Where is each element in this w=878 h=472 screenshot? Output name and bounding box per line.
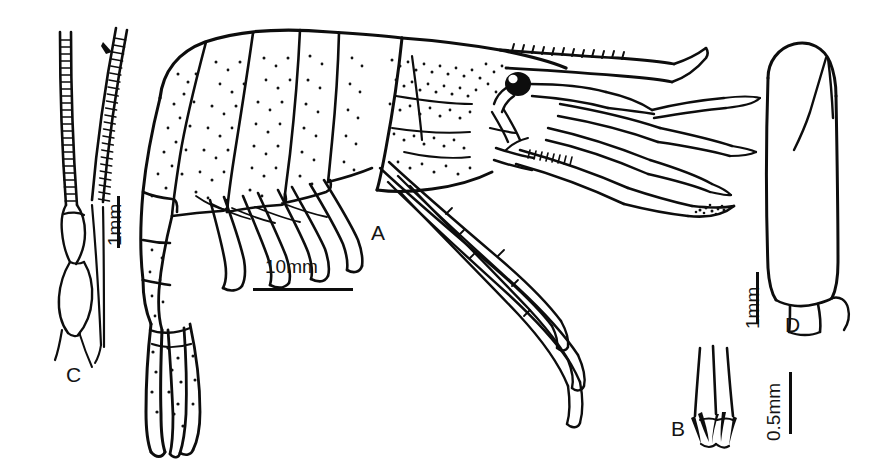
scale-bar-1mm-panel-c: [117, 196, 120, 248]
shrimp-illustration: [0, 0, 878, 472]
scale-label-0-5mm-panel-b: 0.5mm: [763, 383, 785, 441]
scale-label-1mm-panel-d: 1mm: [742, 287, 764, 329]
panel-label-a: A: [371, 221, 386, 245]
scale-bar-1mm-panel-d: [756, 272, 759, 324]
panel-label-c: C: [66, 363, 82, 387]
scale-label-10mm: 10mm: [265, 256, 318, 278]
panel-label-d: D: [785, 313, 801, 337]
scale-bar-10mm: [253, 288, 353, 291]
panel-b-drawing: [691, 346, 737, 447]
panel-a-drawing: [141, 30, 760, 457]
scale-label-1mm-panel-c: 1mm: [104, 204, 126, 246]
scale-bar-0-5mm-panel-b: [789, 372, 792, 434]
panel-d-drawing: [767, 43, 849, 335]
panel-label-b: B: [671, 417, 686, 441]
figure-plate: A B C D 10mm 1mm 1mm 0.5mm: [0, 0, 878, 472]
